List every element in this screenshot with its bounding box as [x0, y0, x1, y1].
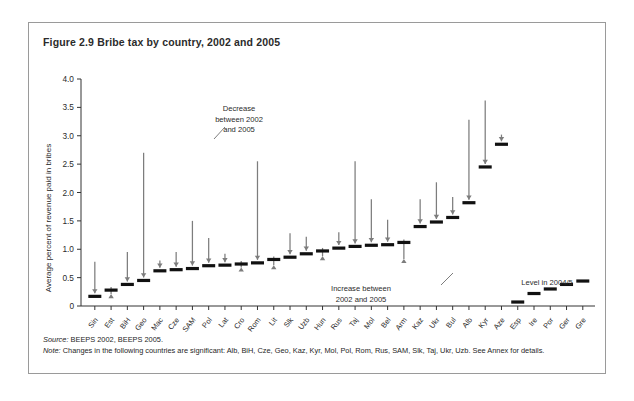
decrease-arrow-head	[336, 241, 341, 245]
country-mark	[349, 161, 362, 248]
decrease-arrow-head	[287, 250, 292, 254]
y-axis-title: Average percent of revenue paid in bribe…	[44, 144, 53, 292]
increase-arrow-head	[320, 256, 325, 260]
country-mark	[186, 221, 199, 270]
y-tick-label: 3.5	[62, 102, 74, 112]
x-tick-label: Mac	[149, 315, 165, 332]
source-line: Source: BEEPS 2002, BEEPS 2005.	[43, 335, 595, 346]
country-mark	[462, 120, 475, 204]
level-2005-bar	[235, 262, 248, 265]
x-tick-label: Bul	[444, 315, 458, 329]
level-2005-bar	[349, 245, 362, 248]
country-mark	[397, 239, 410, 263]
x-tick-label: Cze	[166, 316, 181, 332]
y-tick-label: 3.0	[62, 131, 74, 141]
country-mark	[381, 220, 394, 247]
x-tick-label: Hun	[312, 316, 327, 332]
x-tick-label: Ire	[527, 316, 539, 328]
country-mark	[235, 261, 248, 272]
level-2005-bar	[105, 289, 118, 292]
country-mark	[576, 279, 589, 282]
country-mark	[153, 261, 166, 273]
x-tick-label: Cro	[232, 316, 246, 331]
level-2005-bar	[414, 225, 427, 228]
level-2005-bar	[462, 201, 475, 204]
level-2005-bar	[300, 252, 313, 255]
level-2005-bar	[479, 165, 492, 168]
x-tick-label: Lat	[217, 316, 230, 330]
x-tick-label: Bel	[379, 315, 393, 329]
x-tick-label: Arm	[394, 316, 409, 332]
level-2005-bar	[121, 283, 134, 286]
country-mark	[446, 197, 459, 219]
country-mark	[105, 287, 118, 298]
level-2005-bar	[397, 241, 410, 244]
country-mark	[284, 233, 297, 258]
x-tick-label: SAM	[181, 316, 198, 334]
data-marks	[88, 101, 589, 304]
decrease-arrow-head	[466, 196, 471, 200]
country-mark	[544, 287, 557, 290]
level-2005-bar	[332, 247, 345, 250]
x-tick-label: Ukr	[427, 315, 442, 330]
decrease-arrow-head	[450, 210, 455, 214]
country-mark	[332, 232, 345, 249]
increase-leader-line	[441, 273, 453, 285]
y-axis-ticks: 00.51.01.52.02.53.03.54.0	[62, 74, 81, 311]
x-tick-label: Kaz	[410, 315, 425, 331]
country-mark	[495, 135, 508, 146]
y-tick-label: 0.5	[62, 273, 74, 283]
level-2005-bar	[527, 292, 540, 295]
bribe-tax-chart: Average percent of revenue paid in bribe…	[29, 23, 607, 375]
decrease-arrow-head	[222, 258, 227, 262]
country-mark	[479, 101, 492, 169]
annotation-increase: Increase between2002 and 2005	[331, 284, 391, 304]
annotation-level: Level in 2004/5	[521, 278, 573, 287]
decrease-arrow-head	[385, 238, 390, 242]
country-mark	[170, 252, 183, 271]
x-tick-label: Esp	[508, 316, 523, 332]
decrease-arrow-head	[483, 160, 488, 164]
increase-arrow-head	[239, 267, 244, 271]
decrease-arrow-head	[417, 219, 422, 223]
x-tick-label: Slk	[282, 315, 296, 329]
country-mark	[267, 256, 280, 269]
x-tick-label: Alb	[460, 316, 474, 330]
annotation-line: and 2005	[223, 125, 255, 134]
figure-frame: Figure 2.9 Bribe tax by country, 2002 an…	[28, 22, 606, 374]
level-2005-bar	[251, 261, 264, 264]
increase-arrow-head	[401, 259, 406, 263]
decrease-arrow-head	[141, 273, 146, 277]
x-tick-label: Sin	[86, 316, 100, 330]
level-2005-bar	[316, 249, 329, 252]
y-tick-label: 2.5	[62, 159, 74, 169]
source-label: Source:	[43, 335, 68, 344]
source-text: BEEPS 2002, BEEPS 2005.	[68, 335, 163, 344]
country-mark	[316, 248, 329, 260]
decrease-arrow-head	[92, 289, 97, 293]
decrease-arrow-head	[499, 137, 504, 141]
country-mark	[121, 252, 134, 286]
x-tick-label: BiH	[118, 316, 132, 331]
country-mark	[251, 161, 264, 264]
level-2005-bar	[153, 269, 166, 272]
plot-area: Average percent of revenue paid in bribe…	[29, 23, 607, 375]
country-mark	[137, 153, 150, 282]
x-tick-label: Lit	[267, 316, 279, 328]
level-2005-bar	[218, 264, 231, 267]
level-2005-bar	[430, 220, 443, 223]
level-2005-bar	[511, 300, 524, 303]
x-tick-label: Mol	[362, 315, 377, 330]
x-tick-label: Ger	[557, 315, 572, 331]
x-tick-label: Aze	[492, 316, 507, 332]
x-tick-label: Est	[102, 316, 116, 330]
country-mark	[511, 300, 524, 303]
annotation-line: 2002 and 2005	[336, 295, 387, 304]
increase-arrow-head	[271, 265, 276, 269]
country-mark	[430, 182, 443, 223]
footnotes: Source: BEEPS 2002, BEEPS 2005. Note: Ch…	[43, 335, 595, 356]
level-2005-bar	[576, 279, 589, 282]
x-tick-label: Taj	[347, 315, 360, 328]
y-tick-label: 1.5	[62, 216, 74, 226]
x-tick-label: Uzb	[296, 316, 311, 332]
